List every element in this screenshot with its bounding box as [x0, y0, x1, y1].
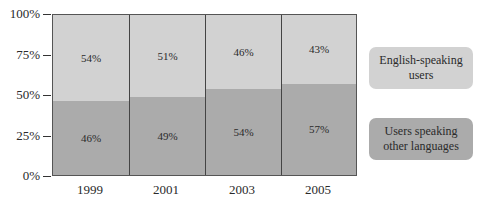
segment-english-2001: 51% — [130, 15, 205, 97]
value-label: 46% — [81, 132, 101, 144]
y-tick-100: 100% — [0, 6, 40, 22]
value-label: 51% — [157, 50, 177, 62]
segment-other-2003: 54% — [206, 89, 281, 175]
bar-2001: 51% 49% — [129, 15, 205, 175]
bar-2003: 46% 54% — [205, 15, 281, 175]
y-tick-mark — [43, 176, 51, 177]
y-tick-mark — [43, 14, 51, 15]
y-tick-mark — [43, 136, 51, 137]
legend-english-speaking: English-speaking users — [369, 47, 473, 89]
stacked-bar-chart: 100% 75% 50% 25% 0% 54% 46% 51% 49% 46% … — [0, 0, 479, 208]
y-tick-mark — [43, 55, 51, 56]
legend-label: other languages — [369, 139, 473, 154]
y-tick-25: 25% — [0, 128, 40, 144]
plot-area: 54% 46% 51% 49% 46% 54% 43% 57% — [52, 14, 357, 176]
segment-english-2003: 46% — [206, 15, 281, 89]
legend-label: English-speaking — [369, 53, 473, 68]
y-tick-50: 50% — [0, 87, 40, 103]
segment-other-2001: 49% — [130, 97, 205, 175]
value-label: 54% — [233, 126, 253, 138]
segment-english-1999: 54% — [53, 15, 129, 101]
value-label: 43% — [309, 43, 329, 55]
legend-other-languages: Users speaking other languages — [369, 118, 473, 160]
value-label: 54% — [81, 52, 101, 64]
value-label: 49% — [157, 130, 177, 142]
y-tick-75: 75% — [0, 47, 40, 63]
x-label-1999: 1999 — [52, 182, 128, 198]
segment-english-2005: 43% — [282, 15, 356, 84]
x-label-2003: 2003 — [204, 182, 280, 198]
y-tick-0: 0% — [0, 168, 40, 184]
value-label: 46% — [233, 46, 253, 58]
bar-2005: 43% 57% — [281, 15, 356, 175]
bar-1999: 54% 46% — [53, 15, 129, 175]
segment-other-2005: 57% — [282, 84, 356, 175]
x-label-2001: 2001 — [128, 182, 204, 198]
legend-label: Users speaking — [369, 124, 473, 139]
legend-label: users — [369, 68, 473, 83]
segment-other-1999: 46% — [53, 101, 129, 175]
y-tick-mark — [43, 95, 51, 96]
value-label: 57% — [309, 123, 329, 135]
x-label-2005: 2005 — [280, 182, 356, 198]
